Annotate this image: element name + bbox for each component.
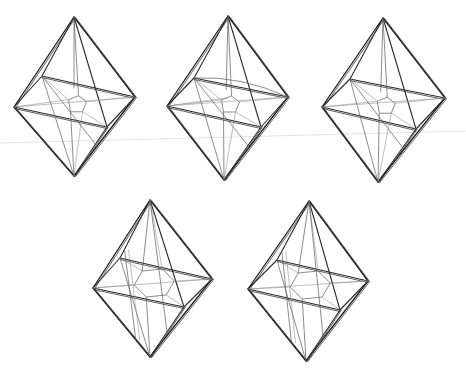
equator-edge-double xyxy=(93,290,184,309)
apex-edge xyxy=(350,79,378,182)
inner-ray xyxy=(381,18,383,92)
octahedron-4 xyxy=(93,200,214,358)
octahedron-1 xyxy=(14,17,137,177)
inner-ray xyxy=(146,297,150,357)
outer-edge-double xyxy=(226,98,290,181)
equator-edge xyxy=(14,76,42,107)
inner-ray xyxy=(224,112,225,180)
apex-edge-double xyxy=(75,127,108,176)
apex-edge-double xyxy=(379,129,417,182)
inner-diagonal xyxy=(322,98,445,107)
outer-edge-double xyxy=(76,98,137,177)
outer-edge-double xyxy=(308,282,370,362)
outer-edge-double xyxy=(385,19,447,99)
inner-diagonal xyxy=(194,78,248,146)
octahedra-drawing xyxy=(0,0,466,378)
equator-edge-double xyxy=(350,81,445,100)
outer-edge xyxy=(228,16,288,97)
outer-edge xyxy=(167,16,228,106)
octahedra-group xyxy=(14,16,447,362)
inner-diagonal xyxy=(150,200,167,332)
equator-edge xyxy=(248,260,277,289)
apex-edge xyxy=(120,258,150,357)
apex-edge xyxy=(42,17,74,76)
inner-pentagon xyxy=(377,97,395,113)
inner-diagonal xyxy=(14,97,135,107)
apex-edge xyxy=(42,76,74,176)
equator-edge-double xyxy=(42,78,135,99)
equator-edge xyxy=(416,98,445,129)
equator-edge xyxy=(93,258,120,288)
equator-edge xyxy=(167,78,194,106)
inner-pentagon xyxy=(69,96,87,112)
outer-edge-double xyxy=(152,280,214,358)
outer-edge xyxy=(93,200,150,288)
apex-edge xyxy=(194,16,228,78)
equator-edge xyxy=(194,78,288,97)
apex-edge xyxy=(74,127,107,176)
equator-edge xyxy=(261,97,288,127)
apex-edge-double xyxy=(225,127,262,180)
apex-edge xyxy=(74,17,107,127)
equator-edge-double xyxy=(277,262,368,283)
paper-crease-line xyxy=(0,131,466,143)
inner-ray xyxy=(378,113,379,182)
apex-edge xyxy=(150,200,184,307)
inner-ray xyxy=(302,299,306,361)
octahedron-2 xyxy=(167,16,290,181)
apex-edge xyxy=(378,129,416,182)
inner-ray xyxy=(350,79,377,101)
inner-hexagon xyxy=(134,269,174,297)
apex-edge xyxy=(277,260,306,361)
equator-edge xyxy=(350,79,445,98)
equator-edge xyxy=(184,279,212,307)
equator-edge xyxy=(107,97,135,127)
apex-edge-double xyxy=(307,310,341,361)
outer-edge-double xyxy=(230,17,290,98)
octahedron-3 xyxy=(322,18,447,183)
apex-edge-double xyxy=(151,307,185,357)
outer-edge-double xyxy=(380,99,447,183)
apex-edge xyxy=(194,78,224,180)
equator-edge-double xyxy=(120,260,212,281)
equator-edge-double xyxy=(322,109,416,131)
equator-edge xyxy=(322,79,350,107)
inner-diagonal xyxy=(167,97,288,106)
outer-edge xyxy=(322,18,383,107)
inner-diagonal xyxy=(248,281,368,289)
apex-edge xyxy=(228,16,261,127)
inner-ray xyxy=(228,16,232,96)
inner-ray xyxy=(226,16,228,90)
outer-edge xyxy=(248,201,309,289)
apex-edge xyxy=(383,18,416,129)
inner-diagonal xyxy=(93,279,212,288)
apex-edge xyxy=(350,18,383,79)
apex-edge xyxy=(224,127,261,180)
outer-edge xyxy=(383,18,445,98)
octahedron-5 xyxy=(248,201,370,362)
outer-edge xyxy=(14,17,74,107)
equator-edge xyxy=(340,281,368,310)
equator-edge-double xyxy=(248,291,340,312)
